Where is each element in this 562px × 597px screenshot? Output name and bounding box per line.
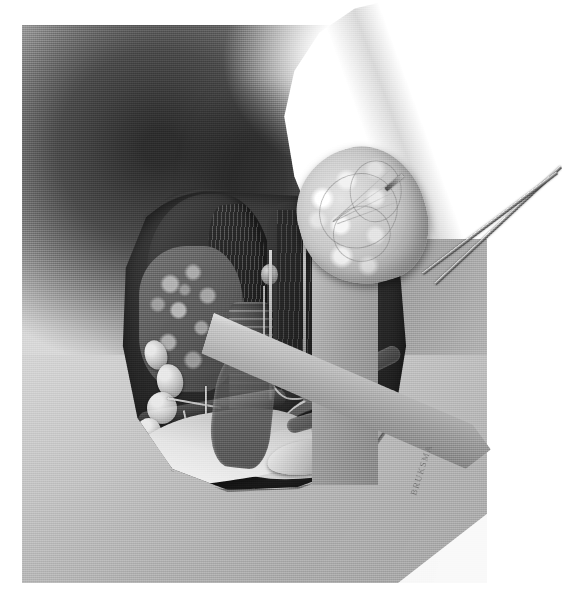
- illustration-plate: BRUKSMA: [22, 25, 487, 583]
- specimen-forceps[interactable]: [382, 15, 557, 205]
- forceps-tip: [385, 174, 404, 191]
